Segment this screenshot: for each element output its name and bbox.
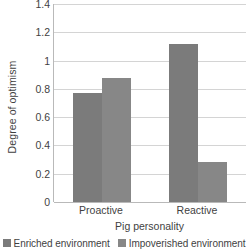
- bar: [198, 162, 227, 202]
- y-axis-tick-label: 0.8: [35, 83, 50, 95]
- y-axis-tick-label: 0.4: [35, 139, 50, 151]
- y-axis-title-text: Degree of optimism: [6, 61, 18, 154]
- bars-group: [54, 4, 246, 202]
- legend-item[interactable]: Enriched environment: [3, 238, 110, 249]
- bar: [102, 78, 131, 202]
- legend-swatch-icon: [118, 239, 126, 247]
- y-axis-tick-label: 1.4: [35, 0, 50, 10]
- y-axis-tick-label: 1.2: [35, 26, 50, 38]
- bar: [169, 44, 198, 202]
- y-axis-tick-labels: 00.20.40.60.811.21.4: [24, 0, 53, 214]
- x-axis-tick-label: Reactive: [177, 204, 218, 216]
- legend-swatch-icon: [3, 239, 11, 247]
- legend-label: Impoverished environment: [129, 238, 246, 249]
- chart-legend: Enriched environmentImpoverished environ…: [0, 236, 248, 250]
- y-axis-tick-label: 0.2: [35, 168, 50, 180]
- x-axis-title: Pig personality: [53, 220, 246, 232]
- legend-item[interactable]: Impoverished environment: [118, 238, 246, 249]
- y-axis-tick-label: 1: [44, 55, 50, 67]
- y-axis-tick-label: 0.6: [35, 111, 50, 123]
- x-axis-tick-labels: ProactiveReactive: [53, 204, 246, 220]
- gridline: [54, 202, 246, 203]
- x-axis-tick-label: Proactive: [79, 204, 123, 216]
- bar-chart-figure: Degree of optimism 00.20.40.60.811.21.4 …: [0, 0, 248, 250]
- legend-label: Enriched environment: [14, 238, 110, 249]
- bar: [73, 93, 102, 202]
- plot-area: [53, 4, 246, 202]
- y-axis-title: Degree of optimism: [0, 0, 24, 214]
- y-axis-tick-label: 0: [44, 196, 50, 208]
